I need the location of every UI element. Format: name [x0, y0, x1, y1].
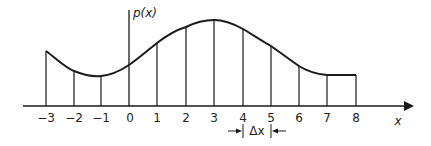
tick-label: −1: [92, 112, 110, 124]
delta-x-label: Δx: [249, 125, 264, 137]
tick-label: 4: [239, 112, 247, 124]
tick-label: 0: [126, 112, 134, 124]
arrow-left-icon: [272, 129, 278, 134]
tick-label: 8: [352, 112, 360, 124]
density-curve: [46, 20, 356, 76]
tick-label: 5: [267, 112, 275, 124]
tick-label: 6: [295, 112, 303, 124]
tick-label: 2: [182, 112, 190, 124]
x-axis-arrow-icon: [404, 101, 414, 111]
x-axis-label: x: [394, 115, 401, 127]
tick-label: 3: [210, 112, 218, 124]
tick-label: 1: [153, 112, 161, 124]
tick-label: 7: [323, 112, 331, 124]
tick-label: −2: [65, 112, 83, 124]
tick-label: −3: [37, 112, 55, 124]
y-axis-label: p(x): [133, 7, 157, 19]
arrow-right-icon: [236, 129, 242, 134]
delta-x-text: Δx: [249, 124, 264, 138]
ordinate-lines: [46, 20, 356, 106]
